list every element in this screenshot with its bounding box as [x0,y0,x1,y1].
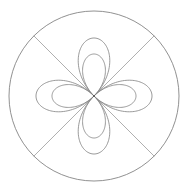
figure-canvas [0,0,188,192]
center-point [93,95,95,97]
polar-rose-diagram [0,0,188,192]
